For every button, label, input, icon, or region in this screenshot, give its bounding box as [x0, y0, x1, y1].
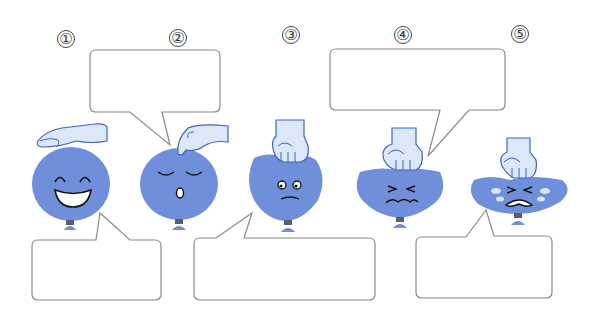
- balloon-2-calm: [140, 125, 228, 230]
- fist-hand-icon: [383, 128, 422, 170]
- balloon-3-worried: [249, 120, 323, 232]
- speech-bubble-5[interactable]: [416, 210, 552, 298]
- pointing-hand-icon: [178, 125, 228, 155]
- flat-hand-icon: [37, 124, 107, 147]
- balloon-worksheet: ① ② ③ ④ ⑤: [0, 0, 599, 319]
- fist-hand-icon: [501, 138, 537, 178]
- balloon-4-strained: [357, 128, 443, 228]
- balloon-1-laughing: [32, 124, 110, 230]
- speech-bubble-3[interactable]: [194, 213, 375, 300]
- speech-bubble-1[interactable]: [32, 213, 161, 300]
- speech-bubble-4[interactable]: [330, 49, 505, 156]
- fist-hand-icon: [272, 120, 308, 162]
